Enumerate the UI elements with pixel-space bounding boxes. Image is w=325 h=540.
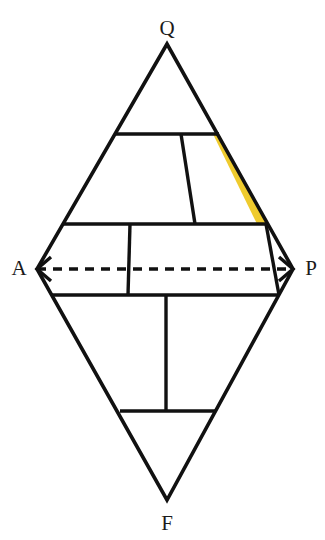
qapf-diagram: QAPF — [0, 0, 325, 540]
divider-upper-mid — [181, 134, 195, 224]
ap-axis-layer — [37, 257, 293, 281]
internal-boundaries — [52, 134, 279, 411]
vertex-label-p: P — [305, 256, 317, 280]
vertex-label-f: F — [161, 511, 173, 535]
vertex-labels: QAPF — [11, 16, 316, 535]
divider-mid-left — [128, 224, 130, 295]
qapf-diagram-canvas: QAPF — [0, 0, 325, 540]
outline-layer — [37, 44, 293, 500]
qapf-outline — [37, 44, 293, 500]
vertex-label-q: Q — [159, 16, 174, 40]
vertex-label-a: A — [11, 256, 27, 280]
